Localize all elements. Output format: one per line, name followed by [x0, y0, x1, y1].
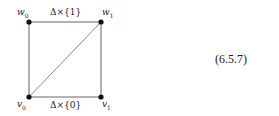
- vertex-v0: [26, 94, 31, 99]
- equation-number: (6.5.7): [215, 52, 247, 67]
- vertex-w1: [98, 19, 103, 24]
- edge-diagonal: [29, 22, 101, 97]
- edge-label-top: Δ×{1}: [50, 8, 81, 17]
- label-w1: w1: [102, 8, 114, 19]
- label-v0: v0: [17, 100, 26, 111]
- edge-label-bottom: Δ×{0}: [50, 101, 81, 110]
- label-v1: v1: [102, 100, 111, 111]
- label-w0: w0: [17, 8, 29, 19]
- vertex-w0: [26, 19, 31, 24]
